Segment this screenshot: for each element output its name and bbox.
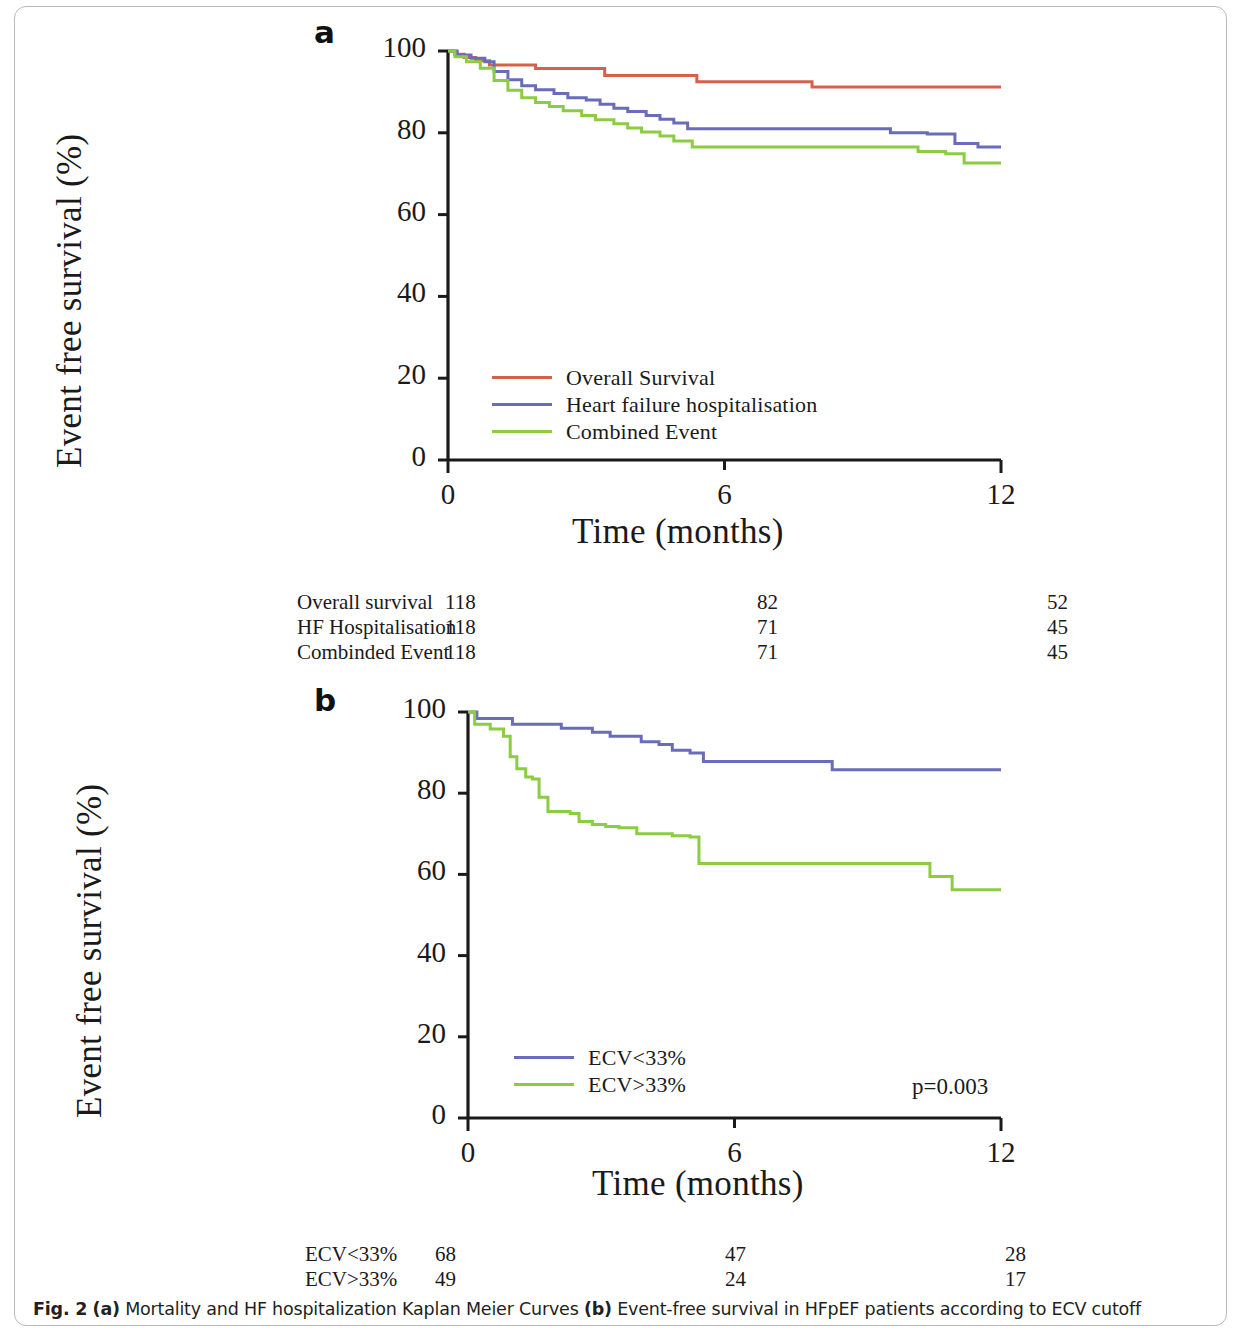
panel-a-x-axis-label: Time (months) xyxy=(572,512,784,552)
legend-swatch-ecv-low xyxy=(514,1056,574,1059)
legend-item-combined-event: Combined Event xyxy=(492,418,817,445)
risk-table-cell: 82 xyxy=(757,590,778,615)
y-tick-label: 80 xyxy=(326,113,426,146)
legend-item-ecv-low: ECV<33% xyxy=(514,1044,686,1071)
legend-item-overall-survival: Overall Survival xyxy=(492,364,817,391)
y-tick-label: 60 xyxy=(326,195,426,228)
legend-label-hf-hospitalisation: Heart failure hospitalisation xyxy=(566,392,817,418)
y-tick-label: 0 xyxy=(326,440,426,473)
legend-label-ecv-low: ECV<33% xyxy=(588,1045,686,1071)
legend-item-hf-hospitalisation: Heart failure hospitalisation xyxy=(492,391,817,418)
x-tick-label: 0 xyxy=(408,478,488,511)
caption-part-a-marker: (a) xyxy=(93,1299,120,1319)
figure-area: a Event free survival (%) Overall Surviv… xyxy=(0,0,1241,1290)
y-tick-label: 40 xyxy=(346,936,446,969)
caption-fig-label: Fig. 2 xyxy=(33,1299,87,1319)
risk-table-cell: 118 xyxy=(445,615,476,640)
risk-table-cell: 17 xyxy=(1005,1267,1026,1292)
km-curve xyxy=(468,712,1001,890)
caption-part-a-text: Mortality and HF hospitalization Kaplan … xyxy=(120,1299,584,1319)
y-tick-label: 100 xyxy=(346,692,446,725)
risk-table-cell: 49 xyxy=(435,1267,456,1292)
x-tick-label: 12 xyxy=(961,478,1041,511)
panel-a-plot xyxy=(0,0,1241,670)
legend-label-overall-survival: Overall Survival xyxy=(566,365,715,391)
x-tick-label: 6 xyxy=(685,478,765,511)
y-tick-label: 20 xyxy=(346,1017,446,1050)
panel-b-legend: ECV<33% ECV>33% xyxy=(514,1044,686,1098)
risk-table-cell: 68 xyxy=(435,1242,456,1267)
risk-table-row-label: Combinded Event xyxy=(297,640,449,665)
risk-table-cell: 28 xyxy=(1005,1242,1026,1267)
y-tick-label: 100 xyxy=(326,31,426,64)
risk-table-row-label: ECV<33% xyxy=(305,1242,397,1267)
risk-table-cell: 52 xyxy=(1047,590,1068,615)
panel-a-legend: Overall Survival Heart failure hospitali… xyxy=(492,364,817,445)
panel-b: b Event free survival (%) ECV<33% ECV>33… xyxy=(0,670,1241,1290)
panel-b-pvalue-annotation: p=0.003 xyxy=(912,1074,988,1100)
risk-table-cell: 71 xyxy=(757,615,778,640)
x-tick-label: 0 xyxy=(428,1136,508,1169)
risk-table-cell: 118 xyxy=(445,590,476,615)
y-tick-label: 40 xyxy=(326,276,426,309)
km-curve xyxy=(448,51,1001,163)
x-tick-label: 12 xyxy=(961,1136,1041,1169)
risk-table-row-label: ECV>33% xyxy=(305,1267,397,1292)
risk-table-cell: 118 xyxy=(445,640,476,665)
legend-item-ecv-high: ECV>33% xyxy=(514,1071,686,1098)
y-tick-label: 80 xyxy=(346,773,446,806)
risk-table-cell: 45 xyxy=(1047,615,1068,640)
y-tick-label: 60 xyxy=(346,854,446,887)
risk-table-cell: 71 xyxy=(757,640,778,665)
y-tick-label: 20 xyxy=(326,358,426,391)
legend-label-ecv-high: ECV>33% xyxy=(588,1072,686,1098)
risk-table-row-label: Overall survival xyxy=(297,590,433,615)
km-curve xyxy=(448,51,1001,87)
figure-caption: Fig. 2 (a) Mortality and HF hospitalizat… xyxy=(33,1298,1213,1322)
risk-table-cell: 47 xyxy=(725,1242,746,1267)
panel-b-x-axis-label: Time (months) xyxy=(592,1164,804,1204)
km-curve xyxy=(468,712,1001,770)
panel-a: a Event free survival (%) Overall Surviv… xyxy=(0,0,1241,670)
x-tick-label: 6 xyxy=(695,1136,775,1169)
risk-table-cell: 24 xyxy=(725,1267,746,1292)
caption-part-b-marker: (b) xyxy=(584,1299,612,1319)
risk-table-cell: 45 xyxy=(1047,640,1068,665)
risk-table-row-label: HF Hospitalisation xyxy=(297,615,456,640)
legend-swatch-overall-survival xyxy=(492,376,552,379)
legend-swatch-hf-hospitalisation xyxy=(492,403,552,406)
legend-swatch-combined-event xyxy=(492,430,552,433)
y-tick-label: 0 xyxy=(346,1098,446,1131)
legend-swatch-ecv-high xyxy=(514,1083,574,1086)
legend-label-combined-event: Combined Event xyxy=(566,419,717,445)
caption-part-b-text: Event-free survival in HFpEF patients ac… xyxy=(612,1299,1141,1319)
